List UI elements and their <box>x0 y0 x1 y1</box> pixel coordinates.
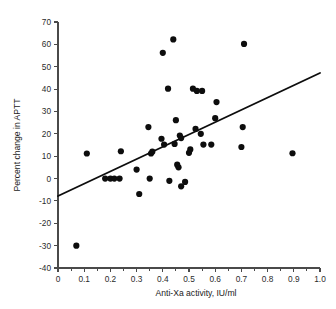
data-point <box>170 36 176 42</box>
data-point <box>145 124 151 130</box>
y-tick-label: 30 <box>42 106 52 116</box>
data-point <box>208 141 214 147</box>
data-point <box>178 135 184 141</box>
x-tick-label: 0.4 <box>157 274 169 284</box>
regression-line <box>58 73 320 196</box>
x-tick-label: 0.5 <box>183 274 195 284</box>
y-tick-label: 20 <box>42 129 52 139</box>
data-point <box>116 175 122 181</box>
regression-line-segment <box>58 73 320 196</box>
data-point <box>213 99 219 105</box>
data-point <box>173 117 179 123</box>
y-tick-label: 70 <box>42 17 52 27</box>
data-point <box>171 141 177 147</box>
y-axis-title: Percent change in APTT <box>12 98 22 192</box>
data-point <box>241 41 247 47</box>
x-axis-tick-labels: 00.10.20.30.40.50.60.70.80.91.0 <box>56 274 326 284</box>
y-axis-tick-labels: -40-30-20-10010203040506070 <box>39 17 51 273</box>
data-point <box>200 141 206 147</box>
data-point <box>289 150 295 156</box>
y-tick-label: -40 <box>39 263 51 273</box>
data-point <box>73 243 79 249</box>
data-point <box>175 164 181 170</box>
y-tick-label: -20 <box>39 218 51 228</box>
x-axis-title: Anti-Xa activity, IU/ml <box>155 288 236 298</box>
x-tick-label: 0.6 <box>209 274 221 284</box>
data-point <box>192 126 198 132</box>
data-point <box>147 175 153 181</box>
axes-group <box>58 22 320 268</box>
data-point <box>149 149 155 155</box>
x-tick-label: 1.0 <box>314 274 326 284</box>
x-tick-label: 0.1 <box>78 274 90 284</box>
data-point <box>187 146 193 152</box>
data-point <box>118 148 124 154</box>
x-tick-label: 0.2 <box>105 274 117 284</box>
y-tick-label: 60 <box>42 39 52 49</box>
scatter-chart-figure: -40-30-20-10010203040506070 00.10.20.30.… <box>0 0 336 309</box>
y-tick-label: 0 <box>46 174 51 184</box>
data-point <box>182 179 188 185</box>
y-tick-label: 50 <box>42 62 52 72</box>
chart-canvas: -40-30-20-10010203040506070 00.10.20.30.… <box>0 0 336 309</box>
y-tick-label: -10 <box>39 196 51 206</box>
y-tick-label: 40 <box>42 84 52 94</box>
x-tick-label: 0.3 <box>131 274 143 284</box>
data-point <box>84 150 90 156</box>
x-tick-label: 0.9 <box>288 274 300 284</box>
data-point <box>240 124 246 130</box>
data-point <box>134 167 140 173</box>
y-tick-label: 10 <box>42 151 52 161</box>
x-tick-label: 0.8 <box>262 274 274 284</box>
data-points-group <box>73 36 295 248</box>
data-point <box>161 141 167 147</box>
data-point <box>160 50 166 56</box>
y-tick-label: -30 <box>39 241 51 251</box>
data-point <box>238 144 244 150</box>
x-tick-label: 0 <box>56 274 61 284</box>
y-axis-ticks <box>54 22 58 268</box>
data-point <box>158 136 164 142</box>
data-point <box>198 131 204 137</box>
data-point <box>165 86 171 92</box>
data-point <box>166 178 172 184</box>
data-point <box>199 88 205 94</box>
data-point <box>212 115 218 121</box>
data-point <box>136 191 142 197</box>
x-tick-label: 0.7 <box>236 274 248 284</box>
